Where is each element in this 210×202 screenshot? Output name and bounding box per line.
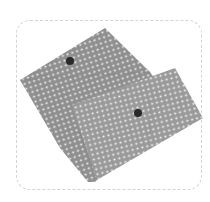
snap-button-icon <box>66 57 74 65</box>
snap-button-icon <box>134 109 142 117</box>
pouch-illustration <box>0 0 210 202</box>
